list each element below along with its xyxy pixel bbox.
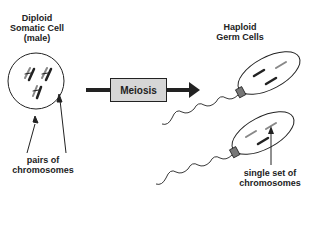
caption-line: chromosomes bbox=[8, 165, 78, 175]
caption-line: pairs of bbox=[8, 155, 78, 165]
caption-line: single set of bbox=[230, 168, 309, 178]
single-set-caption: single set of chromosomes bbox=[230, 168, 309, 188]
chromosome-pairs bbox=[25, 68, 51, 98]
meiosis-process-box: Meiosis bbox=[110, 78, 167, 102]
diploid-cell bbox=[8, 53, 64, 109]
pairs-caption: pairs of chromosomes bbox=[8, 155, 78, 175]
caption-line: chromosomes bbox=[230, 178, 309, 188]
meiosis-label: Meiosis bbox=[120, 85, 157, 96]
pointer-arrows bbox=[27, 94, 66, 153]
